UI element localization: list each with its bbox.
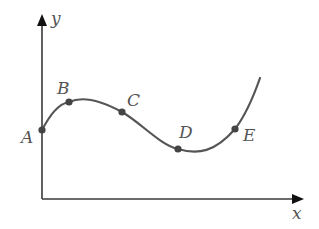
point-a xyxy=(38,126,45,133)
point-c xyxy=(118,108,125,115)
label-d: D xyxy=(178,122,193,142)
axes: y x xyxy=(37,8,304,223)
label-c: C xyxy=(127,90,140,110)
point-d xyxy=(174,145,181,152)
point-e xyxy=(231,125,238,132)
label-b: B xyxy=(56,78,70,98)
label-e: E xyxy=(242,125,256,145)
y-axis-arrow-icon xyxy=(37,14,47,26)
point-b xyxy=(65,98,72,105)
y-axis-label: y xyxy=(50,8,61,28)
function-curve xyxy=(42,78,260,152)
x-axis-label: x xyxy=(292,203,302,223)
label-a: A xyxy=(19,127,33,147)
function-graph: y x A B C D E xyxy=(0,0,319,229)
